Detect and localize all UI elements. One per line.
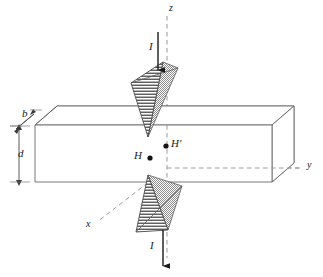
dimension-label-d: d xyxy=(18,148,24,159)
point-label-H: H xyxy=(134,150,142,161)
axis-label-x: x xyxy=(86,219,90,229)
beam-front-face xyxy=(35,125,272,182)
current-label-top: I xyxy=(149,41,153,52)
axis-label-y: y xyxy=(307,160,311,170)
point-H-prime-marker xyxy=(163,143,168,148)
point-label-H-prime: H′ xyxy=(171,138,181,149)
point-H-marker xyxy=(147,155,152,160)
cone-lower-indenter xyxy=(136,175,182,232)
hall-effect-beam-figure: z y x b d H′ H I I xyxy=(0,0,323,277)
figure-canvas xyxy=(0,0,323,277)
dimension-label-b: b xyxy=(22,108,28,119)
current-label-bottom: I xyxy=(150,240,154,251)
beam-top-face xyxy=(35,106,294,125)
axis-label-z: z xyxy=(169,3,173,13)
